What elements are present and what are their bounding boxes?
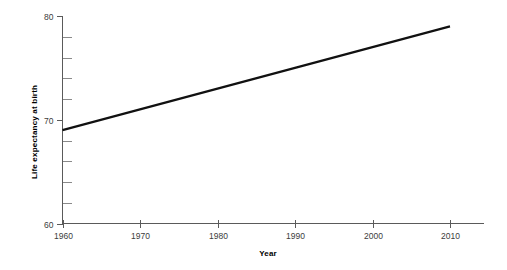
chart-container: 607080 196019701980199020002010 Life exp… <box>0 0 507 270</box>
x-tick-label: 1960 <box>54 231 73 241</box>
y-tick-label: 80 <box>44 12 54 22</box>
x-tick-label: 2000 <box>364 231 383 241</box>
x-tick-label: 1980 <box>209 231 228 241</box>
x-axis-title: Year <box>259 249 277 258</box>
chart-background <box>0 0 507 270</box>
line-chart: 607080 196019701980199020002010 Life exp… <box>0 0 507 270</box>
x-tick-label: 1970 <box>131 231 150 241</box>
x-tick-label: 2010 <box>441 231 460 241</box>
y-tick-label: 70 <box>44 116 54 126</box>
x-tick-label: 1990 <box>286 231 305 241</box>
y-axis-title: Life expectancy at birth <box>30 85 39 179</box>
y-tick-label: 60 <box>44 220 54 230</box>
